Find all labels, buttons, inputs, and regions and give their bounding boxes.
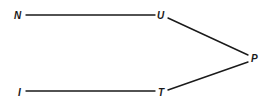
node-i: I (18, 87, 21, 98)
edge-p-t (168, 62, 248, 90)
graph-diagram: N U P I T (0, 0, 273, 103)
edge-u-p (168, 18, 248, 55)
node-n: N (14, 10, 22, 21)
node-t: T (158, 87, 165, 98)
node-u: U (157, 10, 165, 21)
node-p: P (251, 53, 258, 64)
